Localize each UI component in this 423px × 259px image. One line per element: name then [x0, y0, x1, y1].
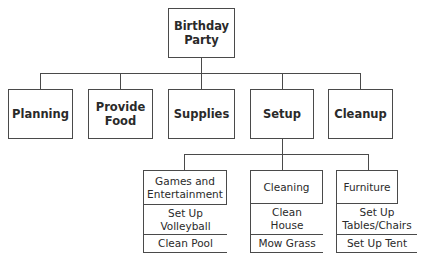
- task-item: Set Up Volleyball: [143, 205, 227, 235]
- connector: [201, 57, 202, 73]
- node-label: Cleanup: [334, 107, 387, 121]
- connector: [40, 73, 41, 89]
- connector: [368, 154, 369, 170]
- node-label: Setup: [263, 107, 301, 121]
- node-birthday-party: Birthday Party: [168, 8, 235, 58]
- node-label: Supplies: [174, 107, 229, 121]
- connector: [360, 73, 361, 89]
- node-label: Birthday Party: [174, 19, 230, 47]
- node-planning: Planning: [8, 89, 73, 139]
- connector: [120, 73, 121, 89]
- connector: [282, 73, 283, 89]
- task-item: Mow Grass: [250, 235, 323, 253]
- connector: [282, 154, 283, 170]
- node-cleaning: Cleaning: [250, 170, 323, 204]
- connector: [184, 154, 369, 155]
- node-label: Provide Food: [96, 100, 146, 128]
- node-label: Furniture: [343, 181, 390, 194]
- task-item: Clean Pool: [143, 235, 227, 253]
- node-furniture: Furniture: [336, 170, 398, 204]
- node-setup: Setup: [250, 89, 314, 139]
- connector: [282, 138, 283, 154]
- node-label: Games and Entertainment: [145, 175, 225, 201]
- node-cleanup: Cleanup: [328, 89, 393, 139]
- node-provide-food: Provide Food: [88, 89, 153, 139]
- task-item: Clean House: [250, 204, 323, 235]
- task-item: Set Up Tent: [336, 235, 417, 253]
- connector: [201, 73, 202, 89]
- task-item: Set Up Tables/Chairs: [336, 204, 417, 235]
- node-games-entertainment: Games and Entertainment: [143, 170, 227, 205]
- node-label: Cleaning: [263, 181, 309, 194]
- node-label: Planning: [12, 107, 69, 121]
- node-supplies: Supplies: [168, 89, 235, 139]
- connector: [184, 154, 185, 170]
